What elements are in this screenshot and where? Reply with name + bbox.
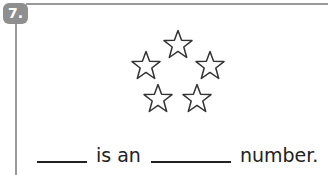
header-rule — [26, 3, 328, 5]
answer-blank-number[interactable] — [37, 143, 87, 163]
sentence-text-is-an: is an — [96, 144, 141, 166]
star-icon — [130, 50, 162, 81]
margin-rule — [15, 22, 17, 175]
sentence-text-number: number. — [240, 144, 318, 166]
star-icon — [194, 50, 226, 81]
star-icon — [142, 83, 174, 114]
answer-blank-parity[interactable] — [151, 143, 231, 163]
fill-in-sentence: is an number. — [37, 143, 318, 166]
star-icon — [181, 83, 213, 114]
question-number-badge: 7. — [3, 3, 28, 24]
star-icon — [162, 29, 194, 60]
